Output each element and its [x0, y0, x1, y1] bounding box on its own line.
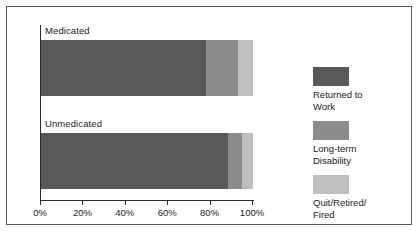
segment-long-term-disability-medicated: [206, 40, 238, 96]
legend-label-quit-retired-fired: Quit/Retired/ Fired: [313, 197, 405, 220]
segment-returned-to-work-unmedicated: [41, 133, 228, 189]
x-tick-20: [82, 200, 83, 205]
segment-long-term-disability-unmedicated: [228, 133, 243, 189]
plot-area: Medicated Unmedicated: [41, 25, 253, 201]
x-tick-label-0: 0%: [33, 207, 47, 218]
x-tick-60: [167, 200, 168, 205]
segment-quit-retired-fired-unmedicated: [242, 133, 253, 189]
stacked-bar-unmedicated: [41, 133, 253, 189]
bar-label-medicated: Medicated: [45, 25, 90, 36]
x-tick-label-60: 60%: [158, 207, 177, 218]
bar-label-unmedicated: Unmedicated: [45, 118, 102, 129]
x-tick-label-40: 40%: [115, 207, 134, 218]
x-tick-label-100: 100%: [240, 207, 264, 218]
chart-frame: Medicated Unmedicated 0%20%40%60%80%100%…: [6, 6, 412, 225]
x-tick-label-80: 80%: [200, 207, 219, 218]
legend-label-long-term-disability: Long-term Disability: [313, 143, 405, 166]
chart-legend: Returned to WorkLong-term DisabilityQuit…: [313, 67, 405, 229]
legend-item-quit-retired-fired: Quit/Retired/ Fired: [313, 175, 405, 220]
chart-figure: Medicated Unmedicated 0%20%40%60%80%100%…: [0, 0, 418, 231]
x-tick-0: [40, 200, 41, 205]
legend-item-long-term-disability: Long-term Disability: [313, 121, 405, 166]
segment-quit-retired-fired-medicated: [238, 40, 253, 96]
segment-returned-to-work-medicated: [41, 40, 206, 96]
legend-swatch-long-term-disability: [313, 121, 349, 140]
stacked-bar-medicated: [41, 40, 253, 96]
x-tick-label-20: 20%: [73, 207, 92, 218]
legend-swatch-quit-retired-fired: [313, 175, 349, 194]
legend-label-returned-to-work: Returned to Work: [313, 89, 405, 112]
legend-swatch-returned-to-work: [313, 67, 349, 86]
x-tick-100: [252, 200, 253, 205]
x-tick-80: [210, 200, 211, 205]
x-tick-40: [125, 200, 126, 205]
legend-item-returned-to-work: Returned to Work: [313, 67, 405, 112]
